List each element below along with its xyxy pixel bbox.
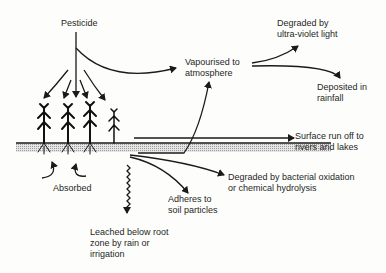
leached-label: Leached below root zone by rain or irrig… xyxy=(90,227,169,260)
leached-arrow xyxy=(127,165,130,213)
bacterial-arrow xyxy=(130,155,224,175)
runoff-line1: Surface run off to xyxy=(295,131,364,142)
vapourise-arrow xyxy=(76,48,176,73)
degraded-uv-line2: ultra-violet light xyxy=(277,29,338,40)
degraded-bacterial-label: Degraded by bacterial oxidation or chemi… xyxy=(228,172,355,194)
vapourised-line2: atmosphere xyxy=(185,68,240,79)
rainfall-arrow xyxy=(252,66,340,78)
degraded-uv-label: Degraded by ultra-violet light xyxy=(277,18,338,40)
pesticide-fate-diagram: Pesticide Vapourised to atmosphere Degra… xyxy=(0,0,386,273)
absorbed-arrows xyxy=(42,162,86,178)
runoff-label: Surface run off to rivers and lakes xyxy=(295,131,364,153)
degraded-bacterial-line2: or chemical hydrolysis xyxy=(228,183,355,194)
leached-line3: irrigation xyxy=(90,249,169,260)
adheres-label: Adheres to soil particles xyxy=(168,194,218,216)
pesticide-label: Pesticide xyxy=(61,18,98,29)
degraded-bacterial-line1: Degraded by bacterial oxidation xyxy=(228,172,355,183)
adheres-line2: soil particles xyxy=(168,205,218,216)
degraded-uv-line1: Degraded by xyxy=(277,18,338,29)
runoff-line2: rivers and lakes xyxy=(295,142,364,153)
adheres-line1: Adheres to xyxy=(168,194,218,205)
deposited-line2: rainfall xyxy=(317,93,367,104)
absorbed-label: Absorbed xyxy=(53,183,92,194)
pesticide-spray-arrows xyxy=(44,32,105,100)
deposited-line1: Deposited in xyxy=(317,82,367,93)
vapourised-line1: Vapourised to xyxy=(185,57,240,68)
leached-line2: zone by rain or xyxy=(90,238,169,249)
uv-arrow xyxy=(252,46,298,63)
leached-line1: Leached below root xyxy=(90,227,169,238)
vapourised-label: Vapourised to atmosphere xyxy=(185,57,240,79)
deposited-label: Deposited in rainfall xyxy=(317,82,367,104)
